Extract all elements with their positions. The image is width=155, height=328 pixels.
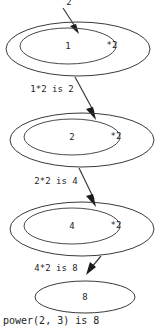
top-input-arrow	[63, 8, 79, 34]
frame-1-operation: *2	[107, 40, 118, 50]
recursion-diagram: 2 1 *2 1*2 is 2 2 *2 2*2 is 4	[0, 0, 155, 328]
frame-2-outer-ellipse	[10, 113, 154, 167]
base-frame-value: 8	[82, 292, 87, 302]
diagram-canvas: 2 1 *2 1*2 is 2 2 *2 2*2 is 4	[0, 0, 155, 328]
frame-3-operation: *2	[111, 220, 122, 230]
edge-frame-3-to-base	[86, 256, 101, 275]
frame-3-accumulator: 4	[69, 221, 74, 231]
stack-frame-3: 4 *2 4*2 is 8	[10, 202, 154, 273]
frame-3-outer-ellipse	[10, 202, 154, 256]
frame-1-result-label: 1*2 is 2	[30, 84, 73, 94]
frame-2-operation: *2	[111, 131, 122, 141]
frame-2-accumulator: 2	[69, 132, 74, 142]
diagram-caption: power(2, 3) is 8	[3, 315, 99, 326]
frame-2-result-label: 2*2 is 4	[34, 176, 77, 186]
frame-1-outer-ellipse	[6, 22, 150, 76]
frame-3-result-label: 4*2 is 8	[34, 263, 77, 273]
edge-frame-2-to-3	[79, 168, 96, 207]
top-argument-label: 2	[66, 0, 71, 7]
stack-frame-base: 8	[35, 281, 135, 313]
frame-1-accumulator: 1	[65, 41, 70, 51]
